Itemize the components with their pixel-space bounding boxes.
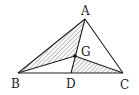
triangle-diagram: A B C D G <box>0 0 139 95</box>
label-c: C <box>120 78 129 92</box>
point-g-dot <box>73 54 77 58</box>
label-d: D <box>66 77 76 91</box>
label-b: B <box>11 77 20 91</box>
label-g: G <box>81 45 91 59</box>
label-a: A <box>80 4 90 18</box>
